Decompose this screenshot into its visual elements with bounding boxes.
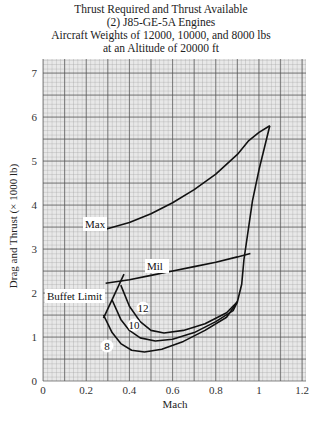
chart-plot: 00.20.40.60.811.201234567 MaxMilBuffet L… [0,0,322,428]
y-axis-label: Drag and Thrust (× 1000 lb) [7,151,19,301]
y-tick-label: 4 [32,199,38,211]
curve-annotation: Max [85,218,106,230]
y-tick-label: 7 [32,67,38,79]
x-axis-label: Mach [0,398,322,410]
x-tick-label: 0.6 [166,384,180,396]
y-tick-label: 1 [32,331,38,343]
x-tick-label: 1.2 [295,384,309,396]
x-tick-label: 0 [40,384,46,396]
y-tick-label: 2 [32,287,38,299]
y-tick-label: 3 [32,243,38,255]
y-tick-label: 0 [32,375,38,387]
x-tick-label: 0.2 [79,384,93,396]
x-tick-label: 0.4 [123,384,137,396]
y-tick-label: 6 [32,111,38,123]
curve-annotation: Buffet Limit [47,290,102,302]
x-tick-label: 1 [256,384,262,396]
curve-annotation: 8 [104,340,110,352]
y-tick-label: 5 [32,155,38,167]
x-tick-label: 0.8 [209,384,223,396]
curve-annotation: 12 [138,302,149,314]
curve-annotation: Mil [147,260,163,272]
curve-annotation: 10 [129,319,141,331]
